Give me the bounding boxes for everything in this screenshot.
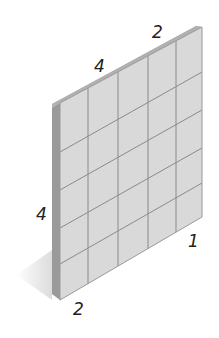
label-left-height: 4 [36, 204, 47, 224]
panel-diagram: 4 2 4 2 1 [0, 0, 219, 338]
panel-side-edge [52, 103, 60, 300]
label-bottom-left: 2 [73, 299, 84, 319]
panel-shadow [16, 250, 52, 300]
label-top-right-edge: 2 [152, 22, 163, 42]
label-bottom-right: 1 [188, 231, 199, 251]
label-top-left-edge: 4 [94, 56, 105, 76]
